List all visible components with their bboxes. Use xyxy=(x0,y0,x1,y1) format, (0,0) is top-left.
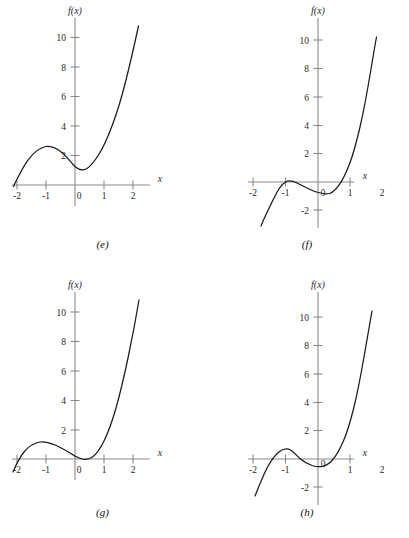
panel-e: -2 -1 0 1 2 2 4 6 8 10 f(x) x (e) xyxy=(0,0,205,270)
panel-label-f: (f) xyxy=(205,238,409,250)
axes-g xyxy=(12,292,150,480)
y-tick-h-0: -2 xyxy=(301,483,309,493)
y-tick-g-1: 4 xyxy=(61,396,66,406)
x-axis-label-h: x xyxy=(362,447,368,458)
x-tick-e-3: 1 xyxy=(102,191,107,201)
x-tick-f-1: -1 xyxy=(282,188,290,198)
y-tick-f-0: -2 xyxy=(301,206,309,216)
x-tick-labels-f: -2 -1 0 1 2 xyxy=(249,188,385,198)
y-tick-e-1: 4 xyxy=(61,122,66,132)
y-axis-label-f: f(x) xyxy=(311,5,326,17)
axes-h xyxy=(248,292,354,505)
x-axis-label-g: x xyxy=(157,447,163,458)
y-axis-label-e: f(x) xyxy=(68,5,83,17)
x-axis-label-e: x xyxy=(157,173,163,184)
x-tick-labels-e: -2 -1 0 1 2 xyxy=(13,191,136,201)
y-tick-labels-e: 2 4 6 8 10 xyxy=(57,33,67,161)
x-tick-h-1: -1 xyxy=(282,465,290,475)
curve-f xyxy=(261,37,377,226)
x-tick-e-4: 2 xyxy=(131,191,136,201)
panel-label-e: (e) xyxy=(0,238,205,250)
x-tick-g-2: 0 xyxy=(77,465,82,475)
x-tick-f-3: 1 xyxy=(348,188,353,198)
curve-e xyxy=(14,26,139,187)
x-tick-h-0: -2 xyxy=(249,465,257,475)
graph-f: -2 -1 0 1 2 -2 2 4 6 8 10 f(x) x xyxy=(205,0,409,270)
axes-f xyxy=(248,18,354,228)
y-tick-g-0: 2 xyxy=(61,426,66,436)
axes-e xyxy=(12,18,150,206)
x-axis-label-f: x xyxy=(362,170,368,181)
y-tick-f-1: 2 xyxy=(304,149,309,159)
y-tick-g-2: 6 xyxy=(61,367,66,377)
panel-h: -2 -1 0 1 2 -2 2 4 6 8 10 f(x) x (h) xyxy=(205,270,409,538)
curve-g xyxy=(13,300,139,472)
panel-label-g: (g) xyxy=(0,506,205,518)
x-tick-h-4: 2 xyxy=(380,465,385,475)
y-axis-label-h: f(x) xyxy=(311,279,326,291)
y-tick-labels-g: 2 4 6 8 10 xyxy=(57,308,67,436)
graph-g: -2 -1 0 1 2 2 4 6 8 10 f(x) x xyxy=(0,270,205,538)
y-tick-f-2: 4 xyxy=(304,121,309,131)
y-tick-g-4: 10 xyxy=(57,308,67,318)
x-tick-e-0: -2 xyxy=(13,191,21,201)
figure-panel-grid: -2 -1 0 1 2 2 4 6 8 10 f(x) x (e) xyxy=(0,0,409,538)
y-tick-h-1: 2 xyxy=(304,426,309,436)
x-tick-g-4: 2 xyxy=(131,465,136,475)
graph-e: -2 -1 0 1 2 2 4 6 8 10 f(x) x xyxy=(0,0,205,270)
x-tick-e-2: 0 xyxy=(77,191,82,201)
y-tick-f-5: 10 xyxy=(300,36,310,46)
y-tick-h-4: 8 xyxy=(304,341,309,351)
y-tick-h-2: 4 xyxy=(304,398,309,408)
x-tick-labels-g: -2 -1 0 1 2 xyxy=(13,465,136,475)
x-tick-f-4: 2 xyxy=(380,188,385,198)
y-tick-e-3: 8 xyxy=(61,63,66,73)
curve-h xyxy=(255,311,372,496)
panel-g: -2 -1 0 1 2 2 4 6 8 10 f(x) x (g) xyxy=(0,270,205,538)
graph-h: -2 -1 0 1 2 -2 2 4 6 8 10 f(x) x xyxy=(205,270,409,538)
y-tick-e-4: 10 xyxy=(57,33,67,43)
y-axis-label-g: f(x) xyxy=(68,279,83,291)
y-tick-h-5: 10 xyxy=(300,313,310,323)
panel-f: -2 -1 0 1 2 -2 2 4 6 8 10 f(x) x (f) xyxy=(205,0,409,270)
x-tick-g-1: -1 xyxy=(42,465,50,475)
y-tick-f-3: 6 xyxy=(304,93,309,103)
y-tick-g-3: 8 xyxy=(61,337,66,347)
y-tick-e-2: 6 xyxy=(61,92,66,102)
x-tick-h-2: 0 xyxy=(321,459,326,469)
x-tick-f-0: -2 xyxy=(249,188,257,198)
y-tick-f-4: 8 xyxy=(304,64,309,74)
x-tick-h-3: 1 xyxy=(348,465,353,475)
x-tick-e-1: -1 xyxy=(42,191,50,201)
panel-label-h: (h) xyxy=(205,506,409,518)
y-tick-labels-h: -2 2 4 6 8 10 xyxy=(300,313,310,493)
x-tick-g-3: 1 xyxy=(102,465,107,475)
y-tick-h-3: 6 xyxy=(304,370,309,380)
